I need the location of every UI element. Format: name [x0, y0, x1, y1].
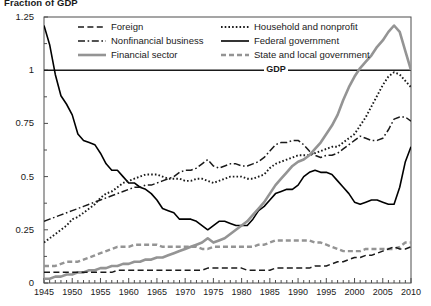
y-axis-label: 1.25: [0, 11, 34, 22]
legend-label: Nonfinancial business: [111, 35, 203, 46]
chart-figure: Fraction of GDP 00.250.50.7511.251945195…: [0, 0, 431, 306]
legend-label: Household and nonprofit: [254, 21, 358, 32]
y-axis-label: 0.5: [0, 171, 34, 182]
y-axis-label: 1: [0, 64, 34, 75]
legend-label: Financial sector: [111, 49, 178, 60]
series-line: [44, 117, 411, 221]
legend-label: Federal government: [254, 35, 339, 46]
chart-plot: [0, 0, 431, 306]
series-line: [44, 72, 411, 242]
legend-label: Foreign: [111, 21, 143, 32]
x-axis-label: 2010: [391, 287, 431, 297]
y-axis-label: 0.25: [0, 224, 34, 235]
legend-label: State and local government: [254, 49, 370, 60]
y-axis-label: 0.75: [0, 117, 34, 128]
series-line: [44, 240, 411, 266]
gdp-line-label: GDP: [264, 64, 288, 74]
